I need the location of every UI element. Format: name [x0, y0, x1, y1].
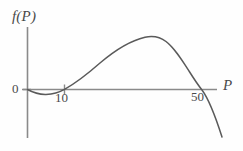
origin-tick-label: 0: [12, 82, 19, 95]
curve-fp: [28, 37, 223, 137]
tick-label-10: 10: [55, 91, 68, 104]
function-graph-figure: f(P) P 0 10 50: [0, 0, 243, 151]
y-axis-label: f(P): [12, 9, 36, 24]
x-axis-label: P: [223, 78, 232, 93]
tick-label-50: 50: [191, 90, 204, 103]
plot-canvas: [0, 0, 243, 151]
